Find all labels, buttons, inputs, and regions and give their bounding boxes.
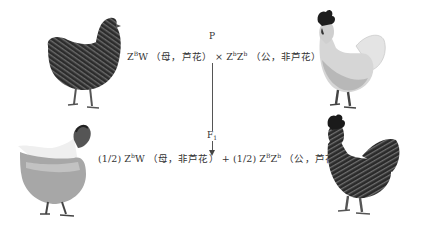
f1-generation-label: F1 — [207, 130, 217, 140]
offspring-female-genotype: ZbW — [124, 153, 145, 164]
non-barred-rooster-image — [310, 8, 386, 110]
cross-arrow-line — [212, 63, 213, 131]
parent-generation-label: P — [209, 31, 215, 41]
female-parent-phenotype: （母，芦花） — [151, 51, 212, 62]
offspring-male-genotype: ZBZb — [259, 153, 281, 164]
barred-rooster-image — [318, 114, 402, 218]
offspring-male-ratio: (1/2) — [233, 153, 256, 164]
barred-hen-image — [42, 14, 124, 110]
male-parent-genotype: ZbZb — [226, 51, 247, 62]
f1-offspring-line: (1/2) ZbW （母，非芦花） + (1/2) ZBZb （公，芦花） — [98, 151, 345, 165]
offspring-female-phenotype: （母，非芦花） — [148, 153, 219, 164]
female-parent-genotype: ZBW — [127, 51, 148, 62]
cross-symbol: × — [215, 51, 223, 62]
offspring-female-ratio: (1/2) — [98, 153, 121, 164]
plus-symbol: + — [222, 153, 230, 164]
parent-cross-line: ZBW （母，芦花） × ZbZb （公，非芦花） — [127, 49, 321, 63]
non-barred-hen-image — [12, 122, 92, 218]
